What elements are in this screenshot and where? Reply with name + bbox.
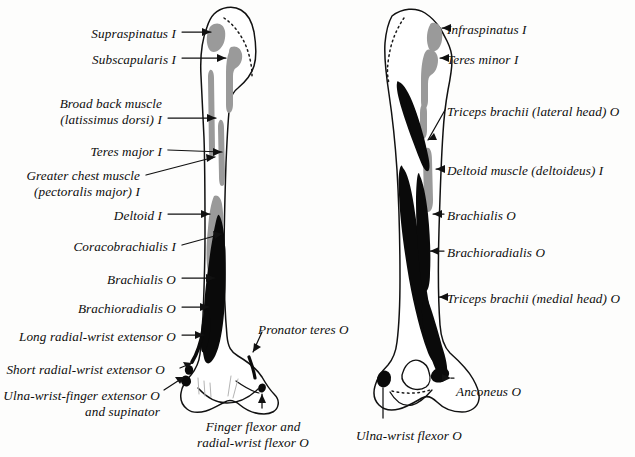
- label-brachioradialis-right: Brachioradialis O: [447, 245, 545, 261]
- label-ulna-wrist-finger-extensor: Ulna-wrist-finger extensor O and supinat…: [3, 388, 160, 419]
- label-long-radial-wrist-extensor: Long radial-wrist extensor O: [19, 329, 176, 345]
- label-latissimus-dorsi: Broad back muscle (latissimus dorsi) I: [60, 96, 162, 127]
- label-supraspinatus: Supraspinatus I: [91, 26, 176, 42]
- label-teres-minor: Teres minor I: [447, 52, 518, 68]
- left-humerus-anterior: [180, 7, 279, 414]
- label-coracobrachialis: Coracobrachialis I: [73, 239, 176, 255]
- label-ulna-wrist-flexor: Ulna-wrist flexor O: [356, 428, 462, 444]
- label-finger-radial-wrist-flexor: Finger flexor and radial-wrist flexor O: [197, 419, 309, 450]
- label-short-radial-wrist-extensor: Short radial-wrist extensor O: [6, 362, 165, 378]
- label-deltoid-right: Deltoid muscle (deltoideus) I: [447, 163, 603, 179]
- left-patch-latissimus-dorsi: [208, 70, 215, 159]
- label-subscapularis: Subscapularis I: [92, 52, 176, 68]
- label-anconeus: Anconeus O: [456, 384, 521, 400]
- label-infraspinatus: Infraspinatus I: [447, 22, 527, 38]
- label-brachialis-left: Brachialis O: [107, 272, 176, 288]
- right-olecranon-fossa: [402, 360, 430, 389]
- label-triceps-lateral-head: Triceps brachii (lateral head) O: [447, 104, 619, 120]
- label-teres-major: Teres major I: [91, 144, 162, 160]
- figure-humerus-attachments: Supraspinatus ISubscapularis IBroad back…: [0, 0, 635, 457]
- label-pronator-teres: Pronator teres O: [258, 322, 349, 338]
- label-brachioradialis-left: Brachioradialis O: [78, 301, 176, 317]
- label-brachialis-right: Brachialis O: [447, 208, 516, 224]
- label-triceps-medial-head: Triceps brachii (medial head) O: [447, 291, 620, 307]
- label-pectoralis-major: Greater chest muscle (pectoralis major) …: [26, 168, 140, 199]
- label-deltoid-left: Deltoid I: [114, 208, 162, 224]
